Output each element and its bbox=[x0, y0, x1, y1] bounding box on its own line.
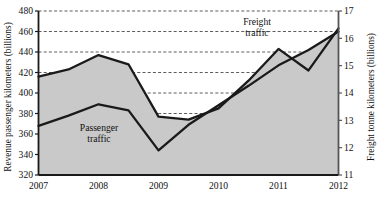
left-tick-label: 460 bbox=[19, 26, 34, 37]
passenger-annotation-line1: Passenger bbox=[80, 122, 119, 133]
right-tick-label: 16 bbox=[344, 33, 354, 44]
chart-container: 320340360380400420440460480 111213141516… bbox=[0, 0, 381, 204]
left-tick-label: 480 bbox=[19, 5, 34, 16]
left-tick-label: 340 bbox=[19, 149, 34, 160]
x-tick-label: 2008 bbox=[89, 180, 108, 191]
left-axis-ticks: 320340360380400420440460480 bbox=[19, 5, 39, 180]
right-tick-label: 17 bbox=[344, 5, 354, 16]
left-tick-label: 320 bbox=[19, 169, 34, 180]
freight-annotation-line2: traffic bbox=[245, 27, 268, 38]
freight-annotation-line1: Freight bbox=[243, 16, 271, 27]
right-tick-label: 12 bbox=[344, 142, 354, 153]
left-tick-label: 380 bbox=[19, 108, 34, 119]
x-tick-label: 2010 bbox=[209, 180, 228, 191]
left-tick-label: 440 bbox=[19, 46, 34, 57]
x-tick-label: 2009 bbox=[149, 180, 168, 191]
right-tick-label: 11 bbox=[344, 169, 353, 180]
left-axis-title: Revenue passenger kilometers (billions) bbox=[3, 22, 14, 172]
left-tick-label: 420 bbox=[19, 67, 34, 78]
dual-axis-area-chart: 320340360380400420440460480 111213141516… bbox=[0, 0, 381, 204]
x-tick-label: 2007 bbox=[29, 180, 48, 191]
x-tick-label: 2011 bbox=[269, 180, 288, 191]
right-axis-title: Freight tonne kilometers (billions) bbox=[366, 33, 377, 161]
left-tick-label: 360 bbox=[19, 128, 34, 139]
x-tick-label: 2012 bbox=[329, 180, 348, 191]
left-tick-label: 400 bbox=[19, 87, 34, 98]
right-tick-label: 13 bbox=[344, 115, 354, 126]
passenger-annotation-line2: traffic bbox=[87, 133, 110, 144]
right-tick-label: 14 bbox=[344, 87, 354, 98]
freight-traffic-annotation: Freight traffic bbox=[243, 16, 271, 38]
right-tick-label: 15 bbox=[344, 60, 354, 71]
